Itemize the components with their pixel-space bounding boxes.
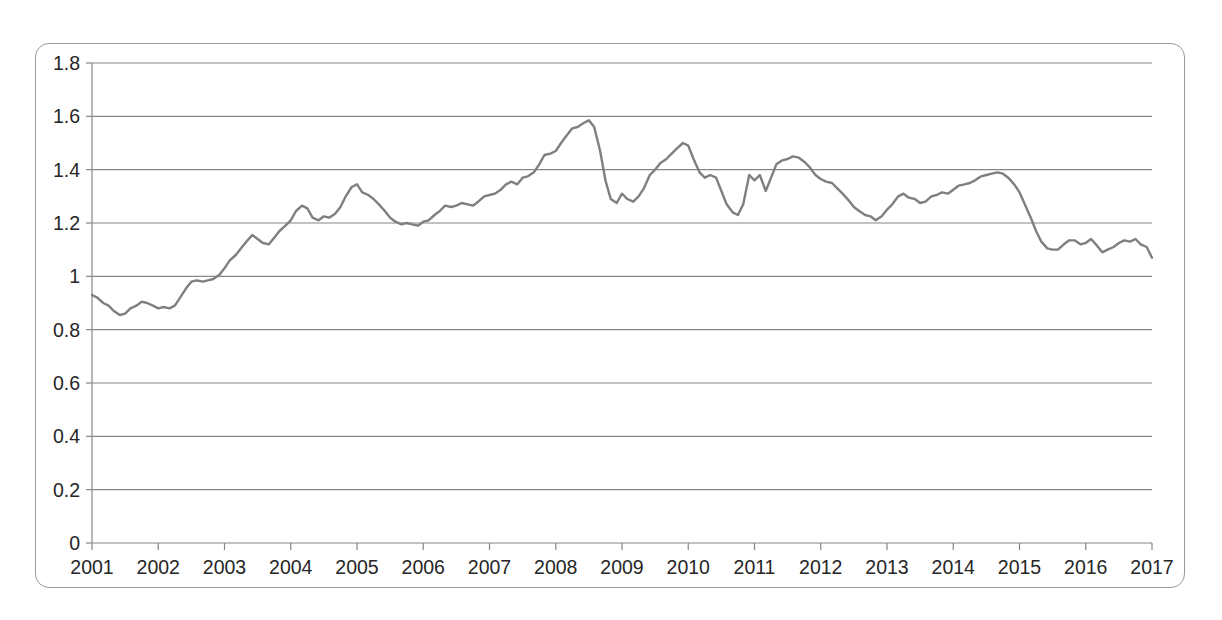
x-tick-label: 2013 — [865, 556, 908, 579]
y-tick-label: 0.6 — [53, 372, 80, 395]
x-tick-label: 2004 — [269, 556, 312, 579]
x-tick-label: 2007 — [468, 556, 511, 579]
x-tick-label: 2009 — [600, 556, 643, 579]
y-tick-label: 0.4 — [53, 425, 80, 448]
x-tick-label: 2011 — [734, 556, 776, 579]
x-tick-label: 2005 — [335, 556, 378, 579]
chart-frame — [35, 43, 1185, 588]
x-tick-label: 2012 — [799, 556, 842, 579]
x-tick-label: 2002 — [137, 556, 180, 579]
x-tick-label: 2016 — [1064, 556, 1107, 579]
y-tick-label: 0.8 — [53, 318, 80, 341]
x-tick-label: 2008 — [534, 556, 577, 579]
x-tick-label: 2014 — [932, 556, 975, 579]
x-tick-label: 2006 — [402, 556, 445, 579]
y-tick-label: 1.4 — [53, 158, 80, 181]
y-tick-label: 1.8 — [53, 52, 80, 75]
x-tick-label: 2001 — [70, 556, 113, 579]
y-tick-label: 1.2 — [53, 212, 80, 235]
x-tick-label: 2017 — [1130, 556, 1173, 579]
y-tick-label: 0.2 — [53, 478, 80, 501]
x-tick-label: 2003 — [203, 556, 246, 579]
y-tick-label: 1 — [69, 265, 80, 288]
y-tick-label: 1.6 — [53, 105, 80, 128]
x-tick-label: 2010 — [667, 556, 710, 579]
x-tick-label: 2015 — [998, 556, 1041, 579]
y-tick-label: 0 — [69, 532, 80, 555]
